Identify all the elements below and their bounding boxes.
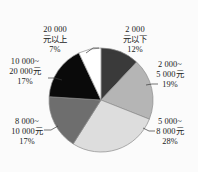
pie-label-2000-below-percent: 12% [107, 45, 163, 55]
pie-label-10000-20000-percent: 17% [0, 77, 53, 87]
pie-label-8000-10000: 8 000~ 10 000元 17% [0, 117, 55, 148]
pie-label-10000-20000: 10 000~ 20 000元 17% [0, 57, 53, 88]
pie-label-5000-8000-line1: 5 000~ [144, 117, 196, 127]
pie-label-5000-8000-percent: 28% [144, 137, 196, 147]
pie-label-20000-above: 20 000 元以上 7% [28, 25, 82, 56]
pie-label-20000-above-line1: 20 000 [28, 25, 82, 35]
pie-label-20000-above-percent: 7% [28, 45, 82, 55]
pie-label-5000-8000: 5 000~ 8 000元 28% [144, 117, 196, 148]
pie-label-10000-20000-line2: 20 000元 [0, 67, 53, 77]
pie-label-8000-10000-line2: 10 000元 [0, 127, 55, 137]
pie-chart-figure: 20 000 元以上 7% 2 000 元以下 12% 2 000~ 5 000… [0, 0, 198, 172]
pie-label-2000-5000-line2: 5 000元 [144, 70, 196, 80]
pie-label-10000-20000-line1: 10 000~ [0, 57, 53, 67]
pie-label-20000-above-line2: 元以上 [28, 35, 82, 45]
pie-label-5000-8000-line2: 8 000元 [144, 127, 196, 137]
pie-label-2000-below: 2 000 元以下 12% [107, 25, 163, 56]
pie-label-8000-10000-percent: 17% [0, 137, 55, 147]
pie-label-2000-5000-percent: 19% [144, 80, 196, 90]
pie-label-2000-below-line2: 元以下 [107, 35, 163, 45]
pie-label-2000-below-line1: 2 000 [107, 25, 163, 35]
pie-label-8000-10000-line1: 8 000~ [0, 117, 55, 127]
pie-label-2000-5000-line1: 2 000~ [144, 60, 196, 70]
pie-label-2000-5000: 2 000~ 5 000元 19% [144, 60, 196, 91]
